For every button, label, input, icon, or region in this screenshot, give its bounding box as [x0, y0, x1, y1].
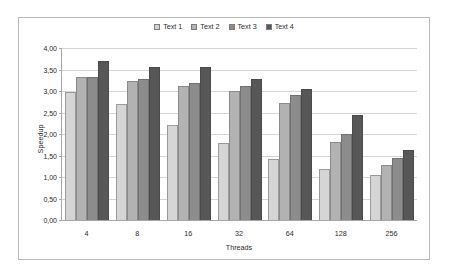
plot-area: 4,003,503,002,502,001,501,000,500,00	[61, 48, 417, 221]
bar[interactable]	[240, 86, 251, 220]
bar[interactable]	[370, 175, 381, 220]
bar[interactable]	[200, 67, 211, 220]
bar[interactable]	[268, 159, 279, 220]
bar[interactable]	[403, 150, 414, 220]
y-axis-tick-label: 3,50	[43, 66, 57, 73]
bar[interactable]	[352, 115, 363, 220]
legend-entry[interactable]: Text 1	[154, 23, 182, 30]
bar-group	[265, 48, 316, 220]
y-axis-title: Speedup	[37, 124, 44, 153]
legend-label: Text 3	[238, 23, 257, 30]
legend-entry[interactable]: Text 3	[229, 23, 257, 30]
bar[interactable]	[167, 125, 178, 220]
legend-entry[interactable]: Text 2	[191, 23, 219, 30]
legend-swatch-icon	[154, 24, 160, 30]
bar-group	[163, 48, 214, 220]
chart-frame: Text 1Text 2Text 3Text 4 4,003,503,002,5…	[18, 17, 430, 260]
bar[interactable]	[341, 134, 352, 220]
bar[interactable]	[76, 77, 87, 220]
bar[interactable]	[229, 91, 240, 220]
x-axis-tick-label: 32	[214, 230, 265, 237]
bar[interactable]	[127, 81, 138, 220]
legend-label: Text 1	[163, 23, 182, 30]
legend-entry[interactable]: Text 4	[266, 23, 294, 30]
bar[interactable]	[116, 104, 127, 220]
bar[interactable]	[251, 79, 262, 220]
y-axis-tick-label: 1,50	[43, 152, 57, 159]
bar[interactable]	[381, 165, 392, 220]
bar[interactable]	[301, 89, 312, 220]
y-axis-tick-mark	[59, 220, 62, 221]
bar[interactable]	[65, 92, 76, 220]
y-axis-tick-label: 2,50	[43, 109, 57, 116]
bar-group	[113, 48, 164, 220]
bar[interactable]	[189, 83, 200, 220]
y-axis-tick-label: 2,00	[43, 131, 57, 138]
bar[interactable]	[149, 67, 160, 220]
plot-inner: 4,003,503,002,502,001,501,000,500,00	[61, 48, 417, 221]
legend-label: Text 2	[200, 23, 219, 30]
bar[interactable]	[98, 61, 109, 220]
chart-legend: Text 1Text 2Text 3Text 4	[19, 23, 429, 30]
x-axis-tick-label: 8	[112, 230, 163, 237]
bar[interactable]	[290, 95, 301, 220]
x-axis-tick-label: 256	[366, 230, 417, 237]
bar[interactable]	[87, 77, 98, 220]
x-axis-title: Threads	[61, 244, 417, 251]
legend-swatch-icon	[191, 24, 197, 30]
legend-label: Text 4	[275, 23, 294, 30]
y-axis-tick-label: 4,00	[43, 45, 57, 52]
bar[interactable]	[279, 103, 290, 220]
x-axis-tick-labels: 48163264128256	[61, 230, 417, 237]
y-axis-tick-label: 0,00	[43, 217, 57, 224]
bar[interactable]	[392, 158, 403, 220]
x-axis-tick-label: 16	[163, 230, 214, 237]
bar[interactable]	[178, 86, 189, 220]
x-axis-tick-label: 64	[264, 230, 315, 237]
bar-group	[62, 48, 113, 220]
y-axis-tick-label: 3,00	[43, 88, 57, 95]
bar[interactable]	[218, 143, 229, 220]
x-axis-tick-label: 128	[315, 230, 366, 237]
bar-group	[366, 48, 417, 220]
x-axis-tick-label: 4	[61, 230, 112, 237]
legend-swatch-icon	[266, 24, 272, 30]
bar[interactable]	[330, 142, 341, 220]
bar[interactable]	[138, 79, 149, 220]
bar[interactable]	[319, 169, 330, 220]
bar-groups	[62, 48, 417, 220]
bar-group	[214, 48, 265, 220]
y-axis-tick-label: 1,00	[43, 174, 57, 181]
legend-swatch-icon	[229, 24, 235, 30]
y-axis-tick-label: 0,50	[43, 195, 57, 202]
gridline	[62, 220, 417, 221]
bar-group	[316, 48, 367, 220]
